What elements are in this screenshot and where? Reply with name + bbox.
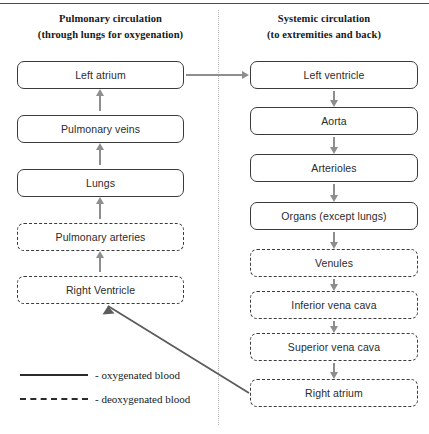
diagram-canvas: Pulmonary circulation (through lungs for…	[0, 0, 429, 434]
node-right-atrium[interactable]: Right atrium	[250, 379, 418, 407]
column-divider	[218, 10, 219, 425]
node-arterioles[interactable]: Arterioles	[250, 154, 418, 182]
node-pulmonary-arteries-label: Pulmonary arteries	[56, 231, 146, 243]
arrow-left-atrium-to-left-ventricle	[186, 74, 242, 76]
arrow-right-ventricle-to-pulmonary-arteries	[99, 257, 101, 272]
node-left-ventricle[interactable]: Left ventricle	[250, 61, 418, 89]
systemic-heading-line2: (to extremities and back)	[224, 27, 424, 43]
node-right-atrium-label: Right atrium	[305, 387, 363, 399]
node-organs-label: Organs (except lungs)	[281, 210, 386, 222]
arrow-pulmonary-arteries-to-lungs	[99, 203, 101, 219]
node-arterioles-label: Arterioles	[311, 162, 356, 174]
pulmonary-heading-line2: (through lungs for oxygenation)	[8, 27, 213, 43]
node-pulmonary-veins-label: Pulmonary veins	[61, 123, 140, 135]
arrow-pulmonary-veins-to-left-atrium	[99, 95, 101, 111]
pulmonary-heading-line1: Pulmonary circulation	[59, 13, 162, 24]
node-inferior-vena-cava[interactable]: Inferior vena cava	[250, 291, 418, 319]
node-left-ventricle-label: Left ventricle	[304, 69, 365, 81]
node-aorta-label: Aorta	[321, 115, 347, 127]
arrow-lungs-to-pulmonary-veins	[99, 149, 101, 165]
node-lungs-label: Lungs	[86, 177, 115, 189]
legend-solid-line-icon	[20, 374, 88, 376]
arrow-left-ventricle-to-aorta	[333, 91, 335, 101]
pulmonary-column-heading: Pulmonary circulation (through lungs for…	[8, 11, 213, 43]
legend-oxygenated-label: - oxygenated blood	[95, 369, 180, 381]
node-organs[interactable]: Organs (except lungs)	[250, 202, 418, 230]
node-left-atrium-label: Left atrium	[75, 69, 126, 81]
legend-dashed-line-icon	[20, 398, 88, 400]
arrow-organs-to-venules	[333, 232, 335, 243]
node-right-ventricle-label: Right Ventricle	[66, 284, 135, 296]
legend-item-oxygenated: - oxygenated blood	[20, 369, 180, 381]
node-venules-label: Venules	[315, 257, 353, 269]
arrow-venules-to-inferior-vena-cava	[333, 279, 335, 285]
node-left-atrium[interactable]: Left atrium	[17, 61, 184, 89]
node-inferior-vena-cava-label: Inferior vena cava	[291, 299, 376, 311]
top-divider-rule	[0, 3, 429, 4]
arrow-arterioles-to-organs	[333, 184, 335, 196]
node-superior-vena-cava[interactable]: Superior vena cava	[250, 333, 418, 361]
node-pulmonary-arteries[interactable]: Pulmonary arteries	[17, 223, 184, 251]
node-superior-vena-cava-label: Superior vena cava	[288, 341, 380, 353]
arrow-aorta-to-arterioles	[333, 137, 335, 148]
node-aorta[interactable]: Aorta	[250, 107, 418, 135]
node-lungs[interactable]: Lungs	[17, 169, 184, 197]
arrow-inferior-to-superior-vena-cava	[333, 321, 335, 327]
systemic-column-heading: Systemic circulation (to extremities and…	[224, 11, 424, 43]
legend-deoxygenated-label: - deoxygenated blood	[95, 393, 190, 405]
legend-item-deoxygenated: - deoxygenated blood	[20, 393, 190, 405]
systemic-heading-line1: Systemic circulation	[278, 13, 371, 24]
arrow-superior-vena-cava-to-right-atrium	[333, 363, 335, 373]
node-pulmonary-veins[interactable]: Pulmonary veins	[17, 115, 184, 143]
node-venules[interactable]: Venules	[250, 249, 418, 277]
node-right-ventricle[interactable]: Right Ventricle	[17, 276, 184, 304]
